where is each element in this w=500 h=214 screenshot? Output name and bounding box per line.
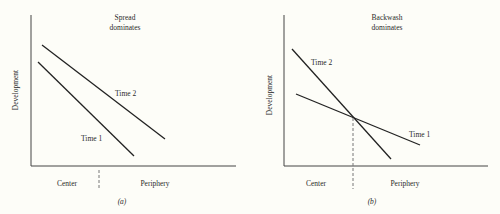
y-axis-label: Development	[11, 69, 20, 110]
panel-a: Spread dominates Development Time 2 Time…	[11, 13, 236, 206]
time-1-line	[296, 94, 420, 145]
time-2-label: Time 2	[311, 58, 332, 67]
panel-b: Backwash dominates Development Time 2 Ti…	[265, 13, 488, 206]
x-label-periphery: Periphery	[390, 179, 419, 188]
y-axis-label: Development	[265, 74, 274, 115]
time-2-line	[42, 45, 165, 139]
x-label-center: Center	[57, 179, 77, 188]
time-1-label: Time 1	[409, 130, 430, 139]
x-label-center: Center	[306, 179, 326, 188]
time-1-label: Time 1	[81, 134, 102, 143]
time-2-label: Time 2	[115, 89, 136, 98]
panel-title-line1: Spread	[115, 13, 136, 22]
panel-title-line2: dominates	[372, 23, 403, 32]
spread-backwash-diagram: Spread dominates Development Time 2 Time…	[0, 0, 500, 214]
panel-caption: (b)	[368, 197, 377, 206]
panel-title-line2: dominates	[110, 23, 141, 32]
panel-title-line1: Backwash	[372, 13, 403, 22]
x-label-periphery: Periphery	[140, 179, 169, 188]
panel-caption: (a)	[118, 197, 127, 206]
time-2-line	[292, 49, 391, 159]
